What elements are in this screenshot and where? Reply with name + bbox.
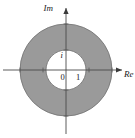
complex-plane-figure: Im Re 0 1 i [0,0,135,138]
imaginary-axis-label: Im [43,3,54,13]
imaginary-axis-arrowhead [63,8,68,14]
real-axis-arrowhead [116,67,122,72]
annulus-diagram-svg: Im Re 0 1 i [0,0,135,138]
real-unit-label: 1 [76,72,80,82]
origin-label: 0 [61,72,65,82]
real-axis-label: Re [123,69,134,79]
